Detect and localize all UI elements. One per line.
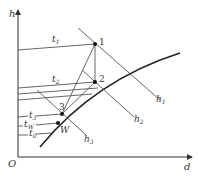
h2-label: h2 bbox=[134, 114, 144, 125]
h-d-diagram: h d O 1 2 3 W t1 t2 t3 tW t0 h1 h2 h3 bbox=[0, 0, 198, 177]
t2-label: t2 bbox=[52, 74, 60, 85]
isotherm-extra-b bbox=[18, 94, 92, 100]
point-w-label: W bbox=[60, 125, 70, 135]
process-1-3 bbox=[62, 44, 95, 114]
h3-label: h3 bbox=[84, 134, 94, 145]
isotherm-t0 bbox=[36, 133, 52, 134]
enthalpy-h2 bbox=[82, 70, 134, 117]
x-axis-label: d bbox=[184, 161, 190, 172]
y-axis-label: h bbox=[9, 8, 15, 19]
t3-label: t3 bbox=[29, 110, 37, 121]
isotherm-tw bbox=[36, 123, 58, 125]
h1-label: h1 bbox=[156, 94, 166, 105]
point-2-label: 2 bbox=[99, 74, 105, 84]
t1-label: t1 bbox=[52, 34, 59, 45]
point-1 bbox=[93, 42, 97, 46]
enthalpy-h1 bbox=[78, 28, 160, 100]
point-3-label: 3 bbox=[59, 102, 65, 112]
isotherm-t3 bbox=[36, 114, 62, 116]
origin-label: O bbox=[8, 158, 16, 169]
point-1-label: 1 bbox=[99, 37, 105, 47]
point-3 bbox=[60, 112, 64, 116]
point-2 bbox=[93, 80, 97, 84]
isotherm-t3-left bbox=[18, 116, 28, 117]
